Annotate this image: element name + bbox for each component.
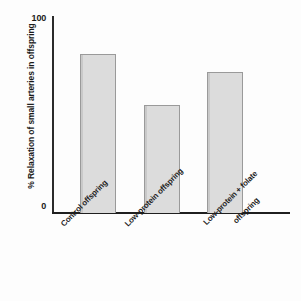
y-axis-title: % Relaxation of small arteries in offspr… [26, 1, 36, 211]
y-axis-line [52, 16, 54, 214]
x-category-label-low-protein-folate: Low-protein + folate offspring [186, 162, 281, 257]
bar-chart-figure: 100 0 % Relaxation of small arteries in … [0, 0, 301, 301]
plot-area: 100 0 % Relaxation of small arteries in … [0, 0, 301, 301]
